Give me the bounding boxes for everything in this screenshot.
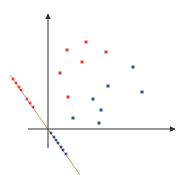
class-a-projected-point bbox=[29, 102, 32, 105]
class-a-projected-point bbox=[12, 78, 15, 81]
class-a-point bbox=[85, 41, 88, 44]
class-a-projected-point bbox=[32, 106, 35, 109]
class-a-projected-point bbox=[15, 82, 18, 85]
class-a-point bbox=[105, 51, 108, 54]
class-a-points bbox=[59, 41, 108, 99]
class-a-point bbox=[59, 72, 62, 75]
class-b-projected-point bbox=[57, 142, 60, 145]
class-b-projected-point bbox=[62, 149, 65, 152]
class-b-points bbox=[72, 66, 144, 125]
class-b-point bbox=[100, 109, 103, 112]
class-b-point bbox=[132, 66, 135, 69]
class-b-point bbox=[107, 85, 110, 88]
class-b-point bbox=[98, 122, 101, 125]
class-b-point bbox=[92, 98, 95, 101]
class-a-point bbox=[66, 49, 69, 52]
class-a-point bbox=[81, 61, 84, 64]
class-b-projected-point bbox=[50, 132, 53, 135]
class-a-point bbox=[67, 96, 70, 99]
class-b-point bbox=[141, 91, 144, 94]
class-b-projected-point bbox=[53, 136, 56, 139]
class-a-projected-point bbox=[26, 98, 29, 101]
class-a-projected-point bbox=[18, 86, 21, 89]
class-b-projected-point bbox=[60, 146, 63, 149]
class-a-projected-point bbox=[20, 89, 23, 92]
class-b-point bbox=[72, 117, 75, 120]
class-b-projected-point bbox=[65, 153, 68, 156]
projection-diagram bbox=[0, 0, 182, 184]
class-b-projected-point bbox=[55, 139, 58, 142]
